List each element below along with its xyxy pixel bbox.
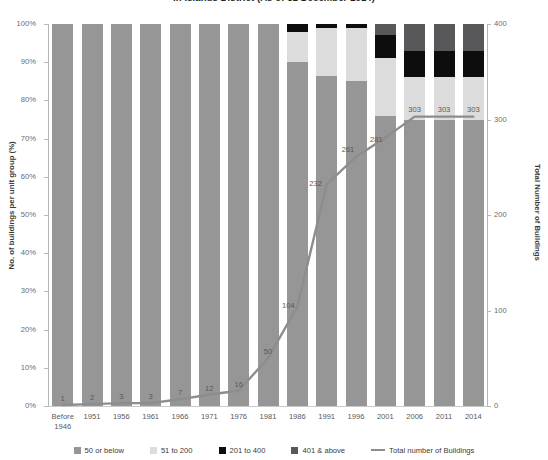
y-axis-right-tick-label: 400 <box>494 19 534 28</box>
legend-line-icon <box>371 449 385 451</box>
y-axis-left-tick-label: 80% <box>0 95 36 104</box>
legend-item[interactable]: 201 to 400 <box>219 446 266 455</box>
y-axis-right-tick-label: 0 <box>494 401 534 410</box>
y-axis-left-tick-label: 60% <box>0 172 36 181</box>
line-point-label: 3 <box>136 392 166 401</box>
line-point-label: 303 <box>458 105 488 114</box>
y-axis-left-tick-label: 20% <box>0 325 36 334</box>
legend-swatch-icon <box>150 447 157 454</box>
legend-item[interactable]: Total number of Buildings <box>371 446 474 455</box>
legend-swatch-icon <box>74 447 81 454</box>
y-axis-left-tick <box>44 406 48 407</box>
line-point-label: 1 <box>48 394 78 403</box>
chart-title: in Islands District (As of 31 December 2… <box>0 0 548 3</box>
legend-item[interactable]: 51 to 200 <box>150 446 193 455</box>
line-point-label: 232 <box>301 179 331 188</box>
y-axis-left-tick-label: 100% <box>0 19 36 28</box>
line-point-label: 50 <box>253 347 283 356</box>
y-axis-left-tick-label: 40% <box>0 248 36 257</box>
y-axis-left-tick-label: 70% <box>0 134 36 143</box>
x-axis-category-label: 2014 <box>452 412 494 422</box>
line-point-label: 12 <box>194 384 224 393</box>
y-axis-right-tick-label: 300 <box>494 115 534 124</box>
y-axis-left-tick-label: 90% <box>0 57 36 66</box>
line-point-label: 2 <box>77 393 107 402</box>
y-axis-left-tick-label: 50% <box>0 210 36 219</box>
line-point-label: 16 <box>224 380 254 389</box>
legend-label: 201 to 400 <box>230 446 266 455</box>
legend-label: 51 to 200 <box>161 446 193 455</box>
legend-swatch-icon <box>291 447 298 454</box>
line-point-label: 281 <box>361 135 391 144</box>
legend-swatch-icon <box>219 447 226 454</box>
legend-label: 50 or below <box>85 446 124 455</box>
y-axis-right-tick-label: 100 <box>494 306 534 315</box>
x-axis-line <box>48 406 488 407</box>
line-point-label: 303 <box>429 105 459 114</box>
y-axis-left-tick-label: 10% <box>0 363 36 372</box>
line-point-label: 261 <box>333 145 363 154</box>
plot-area: 0%10%20%30%40%50%60%70%80%90%100% 010020… <box>48 24 488 406</box>
chart-legend: 50 or below51 to 200201 to 400401 & abov… <box>0 440 548 460</box>
chart-container: in Islands District (As of 31 December 2… <box>0 0 548 460</box>
y-axis-left-tick-label: 0% <box>0 401 36 410</box>
legend-label: Total number of Buildings <box>389 446 474 455</box>
y-axis-right-tick-label: 200 <box>494 210 534 219</box>
legend-item[interactable]: 50 or below <box>74 446 124 455</box>
line-point-label: 3 <box>106 392 136 401</box>
legend-label: 401 & above <box>302 446 345 455</box>
line-point-label: 7 <box>165 388 195 397</box>
line-path <box>63 117 474 405</box>
line-point-label: 303 <box>400 105 430 114</box>
y-axis-left-tick-label: 30% <box>0 286 36 295</box>
legend-item[interactable]: 401 & above <box>291 446 345 455</box>
y-axis-right-tick <box>487 406 491 407</box>
line-point-label: 104 <box>273 301 303 310</box>
